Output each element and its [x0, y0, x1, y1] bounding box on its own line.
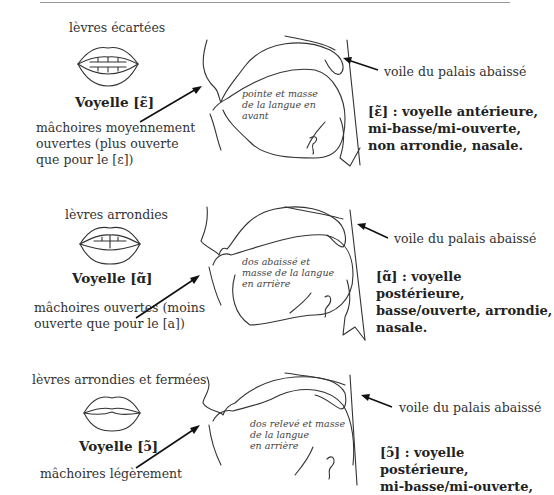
vowel-description: [ɔ̃] : voyelle postérieure, mi-basse/mi-…: [380, 444, 554, 495]
velum-label: voile du palais abaissé: [399, 400, 541, 415]
